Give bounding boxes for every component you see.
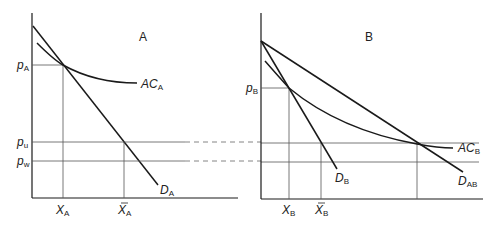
shared-price-lines: pu pw [16, 135, 479, 169]
economics-diagram: A pA ACA DA XA XA pu pw [0, 0, 497, 227]
demand-label-ab: DAB [458, 174, 477, 189]
svg-text:XA: XA [117, 203, 132, 218]
quantity-label-xbar-b: XB [314, 203, 328, 218]
panel-b-title: B [365, 30, 373, 44]
demand-curve-b [261, 41, 337, 169]
pu-label: pu [16, 135, 28, 150]
price-label-a: pA [16, 58, 30, 73]
price-label-b: pB [245, 81, 258, 96]
pw-label: pw [16, 154, 30, 169]
panel-a: A pA ACA DA XA XA [16, 13, 238, 218]
demand-label-a: DA [160, 183, 175, 198]
demand-curve-ab [261, 41, 463, 172]
panel-b: B pB ACB DB DAB XB XB [245, 13, 483, 218]
quantity-label-xb: XB [281, 203, 295, 218]
quantity-label-xa: XA [55, 203, 70, 218]
quantity-label-xbar-a: XA [117, 203, 132, 218]
panel-a-title: A [139, 30, 147, 44]
svg-text:XB: XB [314, 203, 328, 218]
ac-label-a: ACA [140, 77, 164, 92]
demand-label-b: DB [335, 171, 349, 186]
